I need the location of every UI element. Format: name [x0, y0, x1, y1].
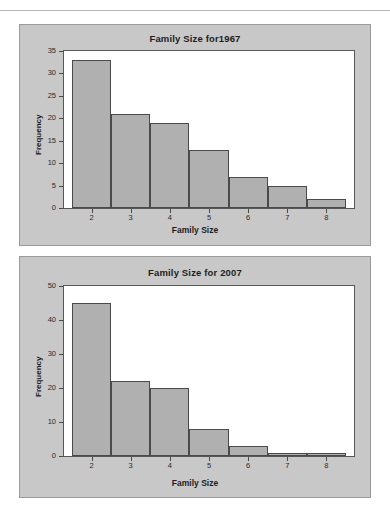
x-tick-mark	[287, 457, 288, 461]
x-tick-label: 2	[85, 461, 99, 470]
y-tick-label: 50	[36, 281, 56, 290]
x-tick-label: 4	[163, 461, 177, 470]
y-tick-label: 30	[36, 349, 56, 358]
bar-series	[64, 51, 354, 208]
bar	[307, 453, 346, 456]
y-tick-label: 10	[36, 417, 56, 426]
plot-area	[63, 50, 355, 209]
bar-series	[64, 286, 354, 456]
x-tick-mark	[287, 209, 288, 213]
bar	[150, 123, 189, 208]
x-tick-mark	[209, 457, 210, 461]
x-tick-mark	[92, 209, 93, 213]
bar	[268, 186, 307, 208]
x-tick-label: 4	[163, 213, 177, 222]
x-tick-mark	[170, 457, 171, 461]
bar	[189, 429, 228, 456]
x-tick-mark	[209, 209, 210, 213]
bar	[150, 388, 189, 456]
x-tick-label: 3	[124, 461, 138, 470]
x-tick-label: 3	[124, 213, 138, 222]
x-tick-mark	[248, 209, 249, 213]
y-tick-label: 0	[36, 451, 56, 460]
x-tick-mark	[170, 209, 171, 213]
bar	[229, 446, 268, 456]
x-axis-label: Family Size	[20, 478, 370, 488]
y-tick-label: 5	[36, 181, 56, 190]
y-tick-label: 25	[36, 91, 56, 100]
bar	[229, 177, 268, 208]
y-tick-label: 20	[36, 113, 56, 122]
plot-area	[63, 285, 355, 457]
x-tick-mark	[326, 209, 327, 213]
y-tick-label: 0	[36, 203, 56, 212]
bar	[72, 303, 111, 456]
bar	[72, 60, 111, 208]
chart-title: Family Size for 2007	[20, 267, 370, 278]
y-tick-label: 35	[36, 46, 56, 55]
x-tick-mark	[326, 457, 327, 461]
chart-panel-1967: Family Size for1967 Frequency 0510152025…	[19, 24, 371, 246]
x-tick-label: 2	[85, 213, 99, 222]
y-tick-label: 15	[36, 136, 56, 145]
bar	[268, 453, 307, 456]
page-root: Family Size for1967 Frequency 0510152025…	[0, 0, 390, 514]
x-tick-label: 8	[319, 213, 333, 222]
x-axis-label: Family Size	[20, 225, 370, 235]
bar	[307, 199, 346, 208]
bar	[111, 114, 150, 208]
x-tick-label: 7	[280, 461, 294, 470]
x-tick-mark	[92, 457, 93, 461]
x-tick-mark	[248, 457, 249, 461]
x-tick-label: 6	[241, 461, 255, 470]
y-tick-label: 10	[36, 158, 56, 167]
x-tick-mark	[131, 457, 132, 461]
x-tick-label: 6	[241, 213, 255, 222]
x-tick-label: 8	[319, 461, 333, 470]
chart-title: Family Size for1967	[20, 33, 370, 44]
y-tick-label: 20	[36, 383, 56, 392]
x-tick-label: 5	[202, 213, 216, 222]
top-divider	[0, 10, 390, 11]
chart-panel-2007: Family Size for 2007 Frequency 010203040…	[19, 256, 371, 498]
bar	[189, 150, 228, 208]
x-tick-label: 7	[280, 213, 294, 222]
bar	[111, 381, 150, 456]
y-tick-label: 40	[36, 315, 56, 324]
x-tick-label: 5	[202, 461, 216, 470]
x-tick-mark	[131, 209, 132, 213]
y-tick-label: 30	[36, 68, 56, 77]
